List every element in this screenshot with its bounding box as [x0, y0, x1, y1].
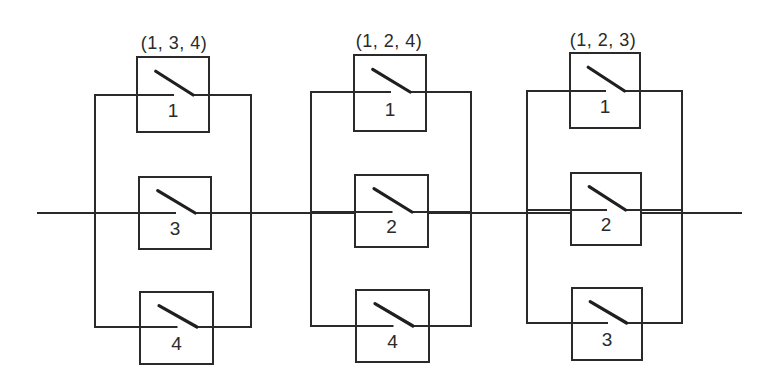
switch-number: 4 — [171, 333, 182, 354]
switch-3: 3 — [95, 177, 251, 249]
switch-number: 3 — [170, 218, 181, 239]
switch-1: 1 — [527, 53, 682, 128]
switch-number: 1 — [600, 96, 611, 117]
switch-1: 1 — [95, 57, 251, 132]
switch-1: 1 — [311, 55, 471, 131]
switch-2: 2 — [311, 175, 471, 247]
switch-number: 2 — [386, 216, 397, 237]
switch-network-diagram: (1, 3, 4)134(1, 2, 4)124(1, 2, 3)123 — [0, 0, 773, 383]
block-label: (1, 2, 4) — [356, 31, 423, 51]
switch-number: 3 — [602, 329, 613, 350]
parallel-block-1: (1, 3, 4)134 — [95, 33, 251, 364]
switch-3: 3 — [527, 288, 682, 360]
parallel-block-2: (1, 2, 4)124 — [311, 31, 471, 362]
block-label: (1, 3, 4) — [141, 33, 208, 53]
parallel-blocks: (1, 3, 4)134(1, 2, 4)124(1, 2, 3)123 — [95, 30, 682, 364]
switch-2: 2 — [527, 173, 682, 245]
parallel-block-3: (1, 2, 3)123 — [527, 30, 682, 360]
switch-4: 4 — [95, 292, 251, 364]
switch-number: 2 — [601, 214, 612, 235]
switch-number: 4 — [387, 331, 398, 352]
switch-number: 1 — [385, 99, 396, 120]
block-label: (1, 2, 3) — [570, 30, 637, 50]
switch-4: 4 — [311, 290, 471, 362]
switch-number: 1 — [168, 100, 179, 121]
